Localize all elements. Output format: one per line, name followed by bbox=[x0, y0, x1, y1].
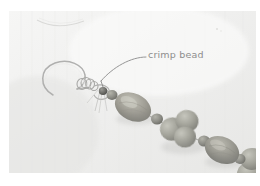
spacer-bead-1 bbox=[107, 90, 118, 100]
crimp-bead bbox=[99, 87, 107, 95]
paper-speck bbox=[216, 28, 218, 30]
annotation-label-crimp-bead: crimp bead bbox=[148, 50, 204, 60]
photograph bbox=[9, 11, 256, 173]
paper-speck-2 bbox=[220, 30, 221, 31]
photograph-canvas bbox=[9, 11, 256, 173]
figure-container: crimp bead bbox=[0, 0, 260, 186]
